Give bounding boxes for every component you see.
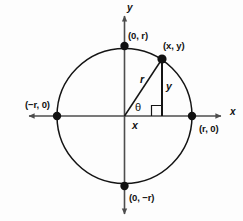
label-left-point: (−r, 0) [25, 100, 50, 110]
y-axis-label: y [127, 3, 133, 13]
point-top [120, 42, 128, 50]
label-moving-point: (x, y) [163, 41, 185, 51]
label-radius-segment: r [140, 74, 144, 85]
label-bottom-point: (0, −r) [129, 193, 154, 203]
label-top-point: (0, r) [128, 31, 148, 41]
point-right [188, 112, 196, 120]
label-horizontal-leg: x [132, 120, 138, 131]
right-angle-marker-icon [152, 106, 163, 117]
point-xy [157, 54, 166, 63]
point-bottom [120, 182, 128, 190]
label-vertical-leg: y [166, 81, 172, 92]
label-angle-theta: θ [135, 102, 141, 113]
circle-diagram-figure: y x (0, r) (x, y) (−r, 0) (r, 0) (0, −r)… [0, 0, 243, 221]
radius-segment [125, 59, 163, 116]
x-axis-label: x [230, 107, 236, 117]
circle-diagram-canvas [0, 0, 243, 221]
label-right-point: (r, 0) [199, 124, 218, 134]
point-left [53, 112, 61, 120]
